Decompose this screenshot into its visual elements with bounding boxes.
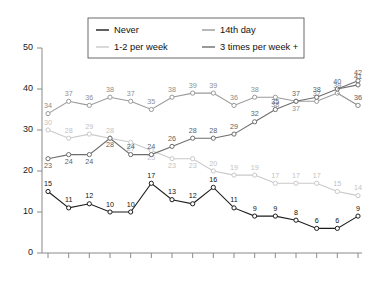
data-point-marker — [253, 173, 257, 177]
data-point-marker — [294, 99, 298, 103]
data-point-marker — [191, 91, 195, 95]
data-point-label: 17 — [271, 171, 279, 180]
data-point-label: 29 — [230, 122, 238, 131]
data-point-marker — [232, 103, 236, 107]
data-point-label: 9 — [356, 204, 360, 213]
data-point-marker — [356, 103, 360, 107]
data-point-label: 13 — [168, 187, 176, 196]
data-point-label: 26 — [168, 134, 176, 143]
data-point-marker — [67, 206, 71, 210]
data-point-marker — [315, 95, 319, 99]
series-line — [48, 93, 358, 114]
data-point-label: 15 — [333, 179, 341, 188]
data-point-marker — [294, 181, 298, 185]
line-chart-container: 0102030405019851987198919911993199519971… — [0, 0, 367, 306]
data-point-marker — [129, 99, 133, 103]
data-point-label: 9 — [253, 204, 257, 213]
data-point-marker — [253, 95, 257, 99]
data-point-marker — [315, 181, 319, 185]
data-point-marker — [253, 214, 257, 218]
data-point-label: 36 — [85, 93, 93, 102]
series-line — [48, 81, 358, 159]
legend-label: 3 times per week + — [220, 42, 298, 52]
data-point-marker — [315, 226, 319, 230]
data-point-label: 23 — [168, 161, 176, 170]
data-point-label: 39 — [209, 81, 217, 90]
data-point-label: 12 — [189, 191, 197, 200]
data-point-label: 38 — [168, 85, 176, 94]
data-point-label: 10 — [127, 200, 135, 209]
data-point-label: 17 — [292, 171, 300, 180]
data-point-label: 14 — [354, 183, 362, 192]
data-point-label: 16 — [209, 175, 217, 184]
y-axis-tick-label: 20 — [23, 165, 33, 175]
data-point-marker — [149, 153, 153, 157]
data-point-marker — [356, 194, 360, 198]
data-point-marker — [294, 218, 298, 222]
data-point-marker — [191, 136, 195, 140]
data-point-label: 28 — [106, 126, 114, 135]
data-point-marker — [149, 181, 153, 185]
data-point-marker — [108, 95, 112, 99]
data-point-marker — [87, 103, 91, 107]
data-point-label: 34 — [44, 101, 52, 110]
y-axis-tick-label: 50 — [23, 42, 33, 52]
data-point-label: 12 — [85, 191, 93, 200]
data-point-marker — [108, 210, 112, 214]
data-point-label: 8 — [294, 208, 298, 217]
data-point-marker — [253, 120, 257, 124]
data-point-label: 40 — [333, 77, 341, 86]
data-point-marker — [170, 198, 174, 202]
data-point-label: 37 — [292, 89, 300, 98]
data-point-marker — [67, 99, 71, 103]
data-point-marker — [129, 210, 133, 214]
data-point-label: 38 — [251, 85, 259, 94]
data-point-label: 35 — [147, 97, 155, 106]
data-point-label: 15 — [44, 179, 52, 188]
data-point-label: 38 — [106, 85, 114, 94]
data-point-label: 20 — [209, 159, 217, 168]
data-point-marker — [273, 181, 277, 185]
data-point-marker — [356, 83, 360, 87]
data-point-label: 39 — [189, 81, 197, 90]
data-point-marker — [211, 91, 215, 95]
legend-label: 1-2 per week — [114, 42, 168, 52]
data-point-label: 29 — [85, 122, 93, 131]
data-point-marker — [46, 128, 50, 132]
data-point-marker — [232, 132, 236, 136]
data-point-label: 24 — [147, 142, 155, 151]
data-point-label: 41 — [354, 72, 362, 81]
data-point-label: 17 — [147, 171, 155, 180]
y-axis-tick-label: 0 — [28, 247, 33, 257]
data-point-label: 28 — [106, 140, 114, 149]
data-point-marker — [211, 169, 215, 173]
data-point-label: 28 — [189, 126, 197, 135]
data-point-label: 6 — [315, 216, 319, 225]
legend-label: Never — [114, 25, 139, 35]
data-point-label: 35 — [271, 97, 279, 106]
y-axis-tick-label: 10 — [23, 206, 33, 216]
series-line — [48, 183, 358, 228]
chart-canvas: 0102030405019851987198919911993199519971… — [0, 0, 367, 306]
data-point-label: 24 — [65, 157, 73, 166]
data-point-label: 23 — [189, 161, 197, 170]
data-point-label: 36 — [354, 93, 362, 102]
data-point-marker — [232, 206, 236, 210]
data-point-marker — [335, 226, 339, 230]
y-axis-tick-label: 40 — [23, 83, 33, 93]
data-point-label: 11 — [230, 195, 237, 204]
data-point-marker — [149, 107, 153, 111]
data-point-label: 37 — [65, 89, 73, 98]
data-point-marker — [129, 153, 133, 157]
series-3-times-per-week: 23242428242426282829323537384042 — [44, 68, 362, 169]
data-point-marker — [356, 214, 360, 218]
data-point-marker — [87, 132, 91, 136]
data-point-label: 9 — [273, 204, 277, 213]
data-point-label: 24 — [85, 157, 93, 166]
data-point-label: 11 — [65, 195, 72, 204]
data-point-marker — [211, 136, 215, 140]
data-point-marker — [273, 107, 277, 111]
data-point-label: 19 — [230, 163, 238, 172]
data-point-label: 19 — [251, 163, 259, 172]
data-point-label: 37 — [292, 104, 300, 113]
